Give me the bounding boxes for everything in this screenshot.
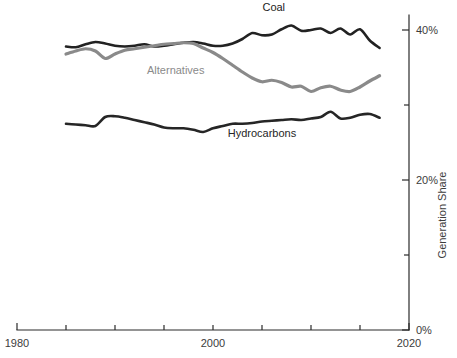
series-label-hydrocarbons: Hydrocarbons: [228, 127, 297, 139]
x-axis-tick-label: 1980: [5, 337, 29, 349]
series-lines: [66, 25, 380, 132]
series-line-coal: [66, 25, 380, 48]
axes: 1980200020200%20%40%: [5, 15, 438, 349]
series-label-alternatives: Alternatives: [147, 64, 205, 76]
line-chart: 1980200020200%20%40% CoalAlternativesHyd…: [0, 0, 457, 358]
y-axis-title: Generation Share: [436, 172, 448, 259]
x-axis-tick-label: 2000: [201, 337, 225, 349]
series-labels: CoalAlternativesHydrocarbons: [147, 1, 297, 139]
y-axis-title-text: Generation Share: [436, 172, 448, 259]
y-axis-tick-label: 40%: [416, 24, 438, 36]
chart-container: 1980200020200%20%40% CoalAlternativesHyd…: [0, 0, 457, 358]
y-axis-tick-label: 0%: [416, 324, 432, 336]
series-line-hydrocarbons: [66, 112, 380, 132]
y-axis-tick-label: 20%: [416, 174, 438, 186]
series-label-coal: Coal: [262, 1, 285, 13]
series-line-alternatives: [66, 43, 380, 92]
x-axis-tick-label: 2020: [397, 337, 421, 349]
